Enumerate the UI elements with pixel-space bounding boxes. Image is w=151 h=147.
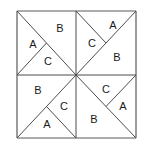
geometric-figure-container: A B C C A B B C A C A B xyxy=(0,0,151,147)
region-label-tr-c: C xyxy=(88,37,96,49)
region-label-br-b: B xyxy=(90,113,97,125)
region-label-br-c: C xyxy=(102,83,110,95)
region-label-bl-c: C xyxy=(60,100,68,112)
region-label-tr-a: A xyxy=(109,19,117,31)
region-label-tr-b: B xyxy=(113,51,120,63)
geometric-diagram-svg: A B C C A B B C A C A B xyxy=(0,0,151,147)
region-label-bl-a: A xyxy=(43,118,51,130)
region-label-bl-b: B xyxy=(34,84,41,96)
region-label-tl-b: B xyxy=(56,22,63,34)
region-label-tl-a: A xyxy=(29,38,37,50)
region-label-br-a: A xyxy=(119,100,127,112)
region-label-tl-c: C xyxy=(44,55,52,67)
